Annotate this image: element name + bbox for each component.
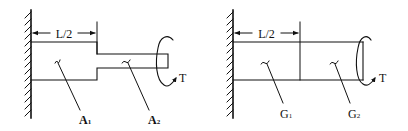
dimension-label: L/2 [258, 27, 275, 41]
right-figure: L/2 G1 G2 T [227, 10, 387, 121]
leader-g1 [267, 64, 283, 103]
section-mark-a1 [55, 60, 60, 63]
dimension-l-half-left: L/2 [33, 22, 97, 54]
torque-label: T [379, 71, 387, 85]
left-figure: L/2 A1 A2 T [25, 10, 187, 127]
label-a2: A2 [148, 113, 161, 127]
leader-g2 [335, 64, 350, 103]
diagram-canvas: L/2 A1 A2 T [0, 0, 408, 131]
dimension-l-half-right: L/2 [235, 22, 300, 80]
fixed-wall-right [227, 10, 233, 118]
dimension-label: L/2 [56, 27, 73, 41]
label-g1: G1 [280, 107, 293, 121]
section-mark-g1 [261, 61, 269, 64]
section-mark-g2 [330, 61, 338, 64]
torque-arrow-left: T [156, 37, 187, 86]
leader-a2 [128, 63, 149, 110]
torque-arrow-right: T [356, 37, 387, 85]
leader-a1 [58, 63, 80, 110]
fixed-wall-left [25, 10, 31, 118]
composite-shaft [233, 42, 363, 80]
label-a1: A1 [79, 113, 92, 127]
section-mark-a2 [122, 60, 130, 63]
stepped-shaft [31, 42, 168, 80]
label-g2: G2 [348, 107, 361, 121]
torque-label: T [179, 71, 187, 85]
